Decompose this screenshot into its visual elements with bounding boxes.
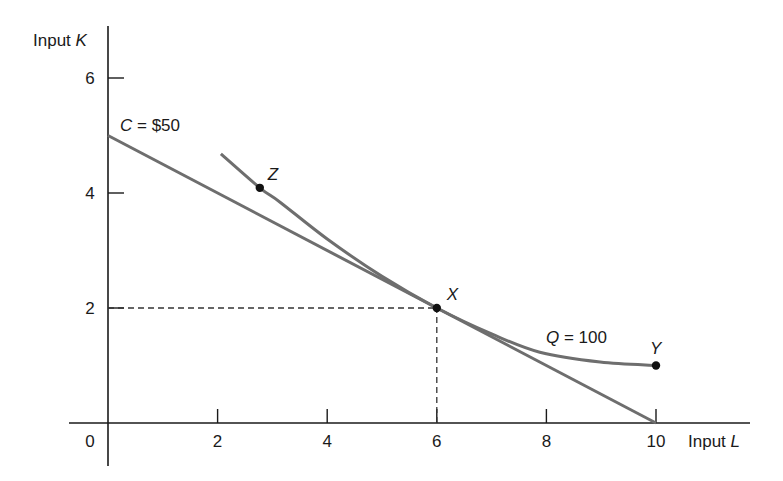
point-z — [256, 184, 264, 192]
isocost-line — [108, 136, 656, 424]
point-label-x: X — [446, 285, 459, 304]
isoquant-label: Q = 100 — [546, 328, 607, 347]
x-axis-label: Input L — [688, 432, 740, 451]
x-tick-label: 10 — [647, 432, 666, 451]
x-tick-label: 2 — [213, 432, 222, 451]
isoquant-isocost-chart: 0246810 246 ZXY Input K Input L C = $50 … — [0, 0, 783, 481]
x-axis-ticks: 0246810 — [85, 409, 665, 451]
point-label-z: Z — [267, 165, 279, 184]
chart-svg: 0246810 246 ZXY Input K Input L C = $50 … — [0, 0, 783, 481]
x-tick-label: 0 — [85, 432, 94, 451]
x-tick-label: 8 — [542, 432, 551, 451]
point-label-y: Y — [650, 339, 663, 358]
y-axis-ticks: 246 — [85, 69, 124, 318]
y-axis-label: Input K — [33, 31, 88, 50]
y-tick-label: 6 — [85, 69, 94, 88]
isocost-label: C = $50 — [120, 116, 180, 135]
point-x — [433, 304, 441, 312]
dashed-guides — [108, 308, 437, 423]
x-tick-label: 4 — [322, 432, 331, 451]
x-tick-label: 6 — [432, 432, 441, 451]
point-y — [652, 361, 660, 369]
y-tick-label: 2 — [85, 299, 94, 318]
y-tick-label: 4 — [85, 184, 94, 203]
